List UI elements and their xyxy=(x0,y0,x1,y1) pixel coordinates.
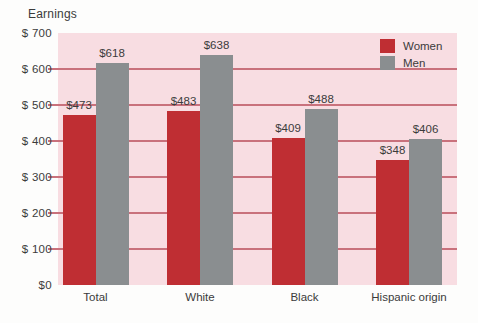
legend-label-men: Men xyxy=(403,56,425,70)
bar-women-white xyxy=(167,111,200,285)
legend-label-women: Women xyxy=(403,39,442,53)
y-axis-tick-label: $ 500 xyxy=(0,98,52,112)
bar-value-label: $618 xyxy=(84,46,140,60)
bar-value-label: $406 xyxy=(398,122,454,136)
y-axis-tick-label: $ 200 xyxy=(0,206,52,220)
y-axis-tick-label: $ 600 xyxy=(0,62,52,76)
bar-men-total xyxy=(96,63,129,285)
bar-men-black xyxy=(305,109,338,285)
legend-swatch-women xyxy=(380,39,395,53)
bar-women-black xyxy=(272,138,305,285)
bar-women-total xyxy=(63,115,96,285)
bar-value-label: $638 xyxy=(189,38,245,52)
x-axis-label-white: White xyxy=(145,290,255,304)
bar-value-label: $488 xyxy=(293,92,349,106)
earnings-bar-chart: Earnings $ 700$ 600$ 500$ 400$ 300$ 200$… xyxy=(0,0,478,323)
y-axis-title: Earnings xyxy=(28,7,77,21)
bar-women-hispanic-origin xyxy=(376,160,409,285)
bar-men-white xyxy=(200,55,233,285)
x-axis-label-black: Black xyxy=(250,290,360,304)
y-axis-tick-label: $ 100 xyxy=(0,242,52,256)
y-axis-tick-label: $ 300 xyxy=(0,170,52,184)
legend-swatch-men xyxy=(380,56,395,70)
x-axis-label-hispanic-origin: Hispanic origin xyxy=(354,290,464,304)
y-axis-tick-label: $ 400 xyxy=(0,134,52,148)
x-axis-label-total: Total xyxy=(41,290,151,304)
y-axis-tick-label: $ 700 xyxy=(0,26,52,40)
bar-men-hispanic-origin xyxy=(409,139,442,285)
